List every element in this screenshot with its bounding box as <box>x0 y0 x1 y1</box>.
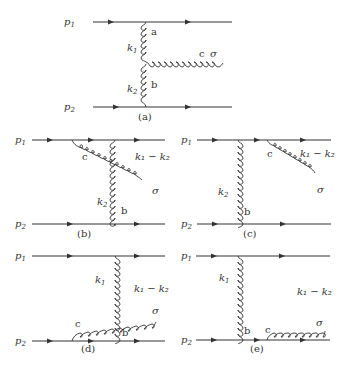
panel-a: p1 p2 a k1 c σ b k2 (a) <box>64 16 232 122</box>
arrow-icon <box>254 138 260 143</box>
caption-b: (b) <box>77 228 91 239</box>
label-c-a: c <box>199 48 205 59</box>
panel-e: p1 p2 k1 k₁ − k₂ σ b c (e) <box>181 250 332 354</box>
arrow-icon <box>134 339 140 344</box>
label-p2-e: p2 <box>181 334 192 347</box>
caption-c: (c) <box>243 228 257 239</box>
arrow-icon <box>254 338 260 343</box>
label-p2-d: p2 <box>15 335 26 348</box>
arrow-icon <box>134 222 140 227</box>
caption-e: (e) <box>250 343 264 354</box>
label-emitted-d: k₁ − k₂ <box>134 283 169 294</box>
label-b-d: b <box>122 327 128 338</box>
panel-c: p1 p2 c k₁ − k₂ σ k2 b (c) <box>181 134 335 239</box>
gluon-emitted-e <box>267 331 325 340</box>
label-k1-e: k1 <box>219 272 230 285</box>
label-sigma-c: σ <box>317 184 325 195</box>
label-k2-b: k2 <box>97 196 108 209</box>
label-sigma-e: σ <box>316 317 324 328</box>
arrow-icon <box>279 254 285 259</box>
label-sigma-b: σ <box>152 185 160 196</box>
label-c-d: c <box>75 318 81 329</box>
gluon-k2-c <box>238 140 243 228</box>
label-p2-c: p2 <box>181 218 192 231</box>
arrow-icon <box>280 222 286 227</box>
gluon-k2-a <box>141 64 146 107</box>
arrow-icon <box>212 222 218 227</box>
gluon-k1-e <box>238 256 243 344</box>
arrow-icon <box>47 138 53 143</box>
label-a-a: a <box>151 26 157 37</box>
feynman-diagrams-figure: p1 p2 a k1 c σ b k2 (a) p1 p2 c <box>0 0 344 374</box>
label-b-a: b <box>151 79 157 90</box>
label-p1-c: p1 <box>181 134 192 147</box>
arrow-icon <box>134 138 140 143</box>
panel-d: p1 p2 k1 k₁ − k₂ σ c b (d) <box>15 250 169 354</box>
arrow-icon <box>300 138 306 143</box>
arrow-icon <box>300 338 306 343</box>
arrow-icon <box>113 105 119 110</box>
arrow-icon <box>67 222 73 227</box>
caption-a: (a) <box>138 111 152 122</box>
label-k1-d: k1 <box>95 274 106 287</box>
label-sigma-d: σ <box>152 305 160 316</box>
label-p1-d: p1 <box>15 250 26 263</box>
gluon-sigma-a <box>146 62 223 67</box>
label-c-c: c <box>267 148 273 159</box>
label-k2-a: k2 <box>127 83 138 96</box>
label-c-b: c <box>82 151 88 162</box>
arrow-icon <box>108 20 114 25</box>
arrow-icon <box>47 339 53 344</box>
label-p2-b: p2 <box>15 218 26 231</box>
label-p1-e: p1 <box>181 250 192 263</box>
label-emitted-b: k₁ − k₂ <box>135 151 170 162</box>
caption-d: (d) <box>81 343 95 354</box>
gluon-k1-d <box>115 256 120 344</box>
label-sigma-a: σ <box>210 48 218 59</box>
arrow-icon <box>185 20 191 25</box>
label-b-e: b <box>244 325 250 336</box>
label-p1-a: p1 <box>64 16 75 29</box>
arrow-icon <box>185 105 191 110</box>
label-b-c: b <box>244 206 250 217</box>
label-k1-a: k1 <box>127 42 138 55</box>
gluon-k2-b <box>110 140 115 226</box>
panel-b: p1 p2 c k₁ − k₂ σ k2 b (b) <box>15 134 170 239</box>
label-b-b: b <box>121 205 127 216</box>
arrow-icon <box>67 254 73 259</box>
label-emitted-e: k₁ − k₂ <box>297 286 332 297</box>
arrow-icon <box>212 138 218 143</box>
label-emitted-c: k₁ − k₂ <box>300 148 335 159</box>
gluon-k1-a <box>141 22 146 62</box>
arrow-icon <box>211 254 217 259</box>
label-k2-c: k2 <box>218 186 229 199</box>
gluon-emitted-d <box>72 322 156 341</box>
label-p2-a: p2 <box>64 101 75 114</box>
arrow-icon <box>211 338 217 343</box>
arrow-icon <box>88 138 94 143</box>
label-p1-b: p1 <box>15 134 26 147</box>
arrow-icon <box>134 254 140 259</box>
label-c-e: c <box>265 324 271 335</box>
